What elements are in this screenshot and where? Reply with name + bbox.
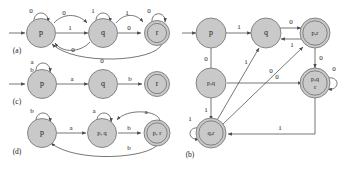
edge-label-a-p-q-straight: 1: [68, 24, 72, 32]
edge-b-pqr-qr: [228, 98, 315, 134]
edge-label-a-r-self: 0: [147, 7, 151, 15]
edge-b-qr-pr: [222, 47, 303, 125]
state-b-qr[interactable]: q,r: [196, 118, 226, 148]
edge-label-d-p-pq: a: [69, 124, 73, 132]
edge-label-d-pq-self: a: [92, 107, 96, 115]
edge-label-b-qr-pr: 0: [269, 67, 273, 75]
edge-label-a-q-self: 1: [91, 7, 95, 15]
edge-label-d-pr-pq: a: [144, 108, 148, 116]
edge-label-b-pqr-qr: 1: [278, 124, 282, 132]
edge-label-b-pq-qr: 1: [204, 106, 208, 114]
edge-label-b-pr-pqr: 0: [319, 54, 323, 62]
state-c-p[interactable]: p: [28, 70, 57, 99]
panel-label-c: (c): [13, 97, 22, 106]
state-d-p[interactable]: p: [28, 119, 57, 148]
state-label-b-pq: p,q: [207, 79, 216, 86]
state-label-d-pq: p, q: [97, 129, 107, 136]
automaton-a: 0 0 1 0 1 1 0 0 0 p q: [9, 7, 170, 65]
edge-label-a-p-self: 0: [29, 7, 33, 15]
state-c-r[interactable]: r: [145, 72, 170, 97]
edge-label-b-p-q: 1: [237, 23, 241, 31]
state-a-r[interactable]: r: [145, 21, 170, 46]
state-d-pq[interactable]: p, q: [88, 119, 117, 148]
edge-a-q-r-above: [116, 15, 143, 23]
state-label-a-r: r: [156, 28, 159, 37]
edge-a-p-q-above: [54, 16, 87, 24]
state-a-p[interactable]: p: [27, 19, 56, 48]
automaton-b: 1 0 0 1 0 1 0 0 1 0 1 1: [182, 18, 337, 159]
edge-label-b-qr-q: 1: [244, 58, 248, 66]
edge-label-b-p-pq: 0: [204, 55, 208, 63]
edge-label-c-p-self-a: a: [30, 58, 34, 66]
edge-d-pr-pq: [117, 112, 160, 121]
state-label-a-q: q: [101, 28, 105, 37]
edge-label-b-pq-pqr: 0: [275, 73, 279, 81]
state-a-q[interactable]: q: [89, 19, 118, 48]
edge-label-b-q-pr: 0: [289, 18, 293, 26]
automata-figure: 0 0 1 0 1 1 0 0 0 p q: [0, 0, 345, 169]
state-c-q[interactable]: q: [89, 70, 118, 99]
state-b-q[interactable]: q: [251, 18, 281, 48]
state-label-c-r: r: [156, 79, 159, 88]
state-label-d-p: p: [40, 128, 44, 137]
state-label-b-pr: p,r: [312, 29, 320, 36]
edge-label-c-p-q: a: [70, 75, 74, 83]
state-label-c-q: q: [101, 79, 105, 88]
state-b-p[interactable]: p: [196, 18, 226, 48]
state-label-d-pr: p, r: [153, 129, 162, 136]
edge-label-d-p-self: b: [30, 107, 34, 115]
state-label-c-p: p: [40, 79, 44, 88]
edge-label-b-pr-q: 1: [290, 41, 294, 49]
state-d-pr[interactable]: p, r: [144, 120, 170, 146]
panel-label-b: (b): [186, 150, 195, 159]
panel-label-a: (a): [13, 46, 22, 55]
state-b-pr[interactable]: p,r: [300, 18, 330, 48]
automaton-d: b a a b a b p p, q p, r (d): [13, 107, 170, 157]
edge-label-d-pr-p: b: [127, 144, 131, 152]
edge-label-a-r-p-long: 0: [100, 57, 104, 65]
state-label-a-p: p: [39, 28, 43, 37]
state-label-b-p: p: [209, 28, 213, 37]
edge-label-a-q-r-above: 1: [125, 9, 129, 17]
panel-label-d: (d): [13, 147, 22, 156]
edge-label-a-p-q-above: 0: [62, 9, 66, 17]
edge-label-a-q-r-straight: 0: [127, 24, 131, 32]
edge-label-d-pq-pr: b: [127, 124, 131, 132]
state-b-pqr[interactable]: p,q r: [300, 68, 330, 98]
edge-label-a-q-p-below: 0: [71, 46, 75, 54]
edge-label-b-qr-self: 1: [188, 115, 192, 123]
state-label-b-qr: q,r: [208, 129, 216, 136]
edge-label-b-pqr-self: 0: [332, 65, 336, 73]
figure-canvas: 0 0 1 0 1 1 0 0 0 p q: [0, 0, 345, 169]
state-label-b-pqr-line1: p,q: [311, 75, 320, 82]
automaton-c: a b a b p q r (c): [9, 58, 170, 106]
state-b-pq[interactable]: p,q: [196, 68, 226, 98]
edge-label-c-q-r: b: [128, 75, 132, 83]
state-label-b-q: q: [264, 28, 268, 37]
